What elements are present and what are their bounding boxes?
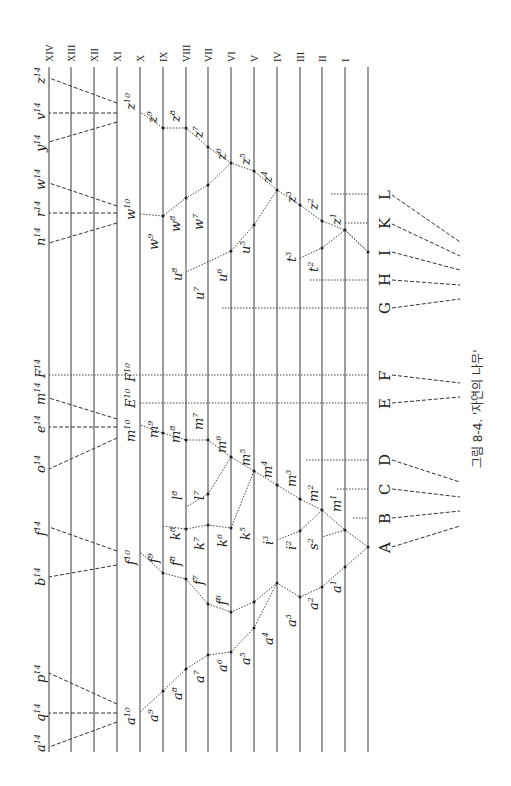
svg-text:a10: a10 bbox=[123, 707, 138, 725]
svg-text:f7: f7 bbox=[191, 574, 206, 586]
svg-text:m2: m2 bbox=[306, 485, 321, 502]
svg-text:z7: z7 bbox=[191, 125, 206, 139]
gen-label-XIII: XIII bbox=[66, 45, 77, 62]
svg-text:u5: u5 bbox=[238, 241, 253, 254]
svg-text:f6: f6 bbox=[214, 595, 229, 606]
svg-text:k8: k8 bbox=[168, 527, 183, 540]
svg-text:w7: w7 bbox=[191, 213, 206, 230]
svg-text:e14: e14 bbox=[33, 415, 48, 433]
svg-text:u6: u6 bbox=[215, 269, 230, 282]
gen-label-VII: VII bbox=[203, 48, 214, 62]
svg-text:m7: m7 bbox=[191, 412, 206, 430]
svg-text:s2: s2 bbox=[306, 538, 321, 550]
svg-text:a7: a7 bbox=[192, 669, 207, 683]
ancestor-labels: L K I H G F E D C B A bbox=[376, 190, 394, 554]
svg-text:k6: k6 bbox=[215, 534, 230, 547]
svg-text:z14: z14 bbox=[33, 67, 48, 85]
svg-text:u8: u8 bbox=[170, 268, 185, 281]
descendant-labels: z14 v14 y14 w14 r14 n14 F14 m14 e14 o14 … bbox=[33, 67, 48, 752]
gen-label-IX: IX bbox=[158, 51, 169, 62]
svg-text:z2: z2 bbox=[306, 198, 321, 211]
species-H: H bbox=[376, 273, 394, 286]
figure-caption: 그림 8-4. '자연의 나무' bbox=[471, 350, 485, 468]
svg-text:z9: z9 bbox=[145, 111, 160, 124]
svg-text:a14: a14 bbox=[33, 734, 48, 752]
tree-of-nature-diagram: XIV XIII XII XI X IX VIII VII VI V IV II… bbox=[0, 0, 511, 786]
svg-text:m8: m8 bbox=[168, 426, 183, 443]
svg-text:t2: t2 bbox=[306, 262, 321, 272]
svg-text:m1: m1 bbox=[329, 495, 344, 512]
species-E: E bbox=[376, 398, 394, 409]
svg-text:m10: m10 bbox=[123, 419, 138, 442]
gen-label-VI: VI bbox=[226, 51, 237, 62]
svg-text:E10: E10 bbox=[123, 388, 138, 409]
species-K: K bbox=[376, 217, 394, 229]
svg-text:i3: i3 bbox=[261, 536, 276, 545]
svg-text:w14: w14 bbox=[33, 169, 48, 190]
species-L: L bbox=[376, 190, 394, 200]
svg-text:a9: a9 bbox=[146, 709, 161, 722]
svg-text:a4: a4 bbox=[261, 632, 276, 645]
species-I: I bbox=[376, 250, 394, 256]
species-B: B bbox=[376, 513, 394, 524]
svg-text:w8: w8 bbox=[168, 216, 183, 232]
svg-text:i2: i2 bbox=[284, 541, 299, 550]
svg-text:a5: a5 bbox=[238, 652, 253, 665]
svg-text:y14: y14 bbox=[33, 134, 48, 153]
svg-text:z1: z1 bbox=[329, 213, 344, 226]
ancestor-fan-lines bbox=[392, 195, 460, 547]
gen-label-XIV: XIV bbox=[44, 43, 55, 62]
svg-text:w10: w10 bbox=[123, 199, 138, 220]
lineage-A bbox=[140, 425, 370, 712]
svg-text:z10: z10 bbox=[123, 93, 138, 111]
svg-text:a1: a1 bbox=[329, 580, 344, 593]
svg-text:z5: z5 bbox=[238, 153, 253, 166]
svg-text:F10: F10 bbox=[123, 363, 138, 383]
svg-text:m9: m9 bbox=[146, 421, 161, 438]
svg-text:z4: z4 bbox=[260, 171, 275, 184]
svg-text:q14: q14 bbox=[33, 703, 48, 722]
svg-text:k7: k7 bbox=[192, 536, 207, 550]
svg-text:r14: r14 bbox=[33, 201, 48, 217]
svg-text:a3: a3 bbox=[284, 614, 299, 627]
svg-text:l8: l8 bbox=[170, 491, 185, 500]
svg-text:a2: a2 bbox=[306, 597, 321, 610]
gen-label-X: X bbox=[135, 54, 146, 62]
svg-text:a6: a6 bbox=[215, 659, 230, 672]
late-divergence bbox=[49, 78, 117, 747]
svg-text:n14: n14 bbox=[33, 227, 48, 246]
lineage-I bbox=[140, 112, 370, 272]
gen-label-V: V bbox=[249, 54, 260, 62]
generation-labels: XIV XIII XII XI X IX VIII VII VI V IV II… bbox=[44, 43, 351, 62]
gen-label-XI: XI bbox=[112, 51, 123, 62]
svg-text:k5: k5 bbox=[238, 527, 253, 540]
svg-text:p14: p14 bbox=[33, 664, 48, 683]
species-F: F bbox=[376, 371, 394, 381]
species-A: A bbox=[376, 542, 394, 554]
svg-text:z6: z6 bbox=[214, 148, 229, 161]
species-D: D bbox=[376, 454, 394, 466]
gen10-labels: z10 w10 F10 E10 m10 f10 a10 bbox=[123, 93, 138, 725]
svg-text:t3: t3 bbox=[284, 252, 299, 262]
gen-label-I: I bbox=[340, 59, 351, 62]
gen-label-III: III bbox=[295, 52, 306, 62]
gen-label-IV: IV bbox=[272, 51, 283, 62]
svg-text:l7: l7 bbox=[192, 490, 207, 500]
generation-lines bbox=[49, 67, 368, 752]
svg-text:m14: m14 bbox=[33, 382, 48, 405]
svg-text:z8: z8 bbox=[168, 110, 183, 123]
svg-text:b14: b14 bbox=[33, 567, 48, 586]
svg-text:m3: m3 bbox=[284, 470, 299, 487]
svg-text:f9: f9 bbox=[146, 553, 161, 564]
species-G: G bbox=[376, 302, 394, 314]
svg-text:v14: v14 bbox=[33, 102, 48, 120]
svg-text:u7: u7 bbox=[192, 286, 207, 300]
svg-text:m5: m5 bbox=[238, 449, 253, 466]
svg-text:m6: m6 bbox=[214, 436, 229, 453]
gen-label-VIII: VIII bbox=[181, 45, 192, 62]
gen-label-II: II bbox=[317, 55, 328, 62]
species-C: C bbox=[376, 484, 394, 495]
svg-text:f8: f8 bbox=[168, 556, 183, 567]
svg-text:a8: a8 bbox=[170, 687, 185, 700]
svg-text:o14: o14 bbox=[33, 455, 48, 473]
